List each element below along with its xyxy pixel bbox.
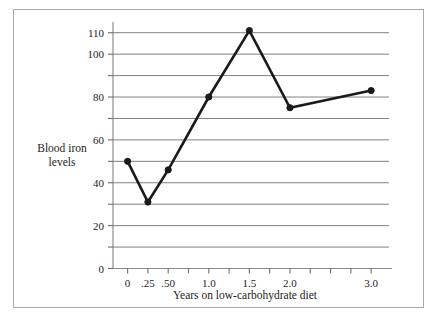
x-axis-tick-label: 1.0	[202, 277, 216, 289]
y-axis-ticks	[108, 33, 113, 269]
y-axis-title-line2: levels	[49, 156, 76, 168]
x-axis-tick-label: .50	[161, 277, 175, 289]
chart-figure: 020406080100110 0.25.501.01.52.03.0 Bloo…	[0, 0, 439, 327]
x-axis-tick-labels: 0.25.501.01.52.03.0	[125, 277, 379, 289]
y-axis-tick-label: 40	[93, 177, 105, 189]
data-point	[125, 158, 131, 164]
y-axis-tick-label: 110	[88, 27, 105, 39]
y-axis-tick-label: 100	[88, 48, 105, 60]
y-axis-title-line1: Blood iron	[37, 142, 87, 154]
x-axis-tick-label: 1.5	[243, 277, 257, 289]
y-axis-tick-label: 0	[99, 263, 105, 275]
y-axis-tick-labels: 020406080100110	[88, 27, 105, 275]
data-point	[368, 87, 374, 93]
x-axis-tick-label: 3.0	[364, 277, 378, 289]
y-axis-tick-label: 80	[93, 91, 105, 103]
data-series-line	[128, 31, 372, 202]
gridlines-group	[113, 33, 389, 269]
y-axis-tick-label: 20	[93, 220, 105, 232]
x-axis-tick-label: 2.0	[283, 277, 297, 289]
data-point	[206, 94, 212, 100]
line-chart: 020406080100110 0.25.501.01.52.03.0 Bloo…	[0, 0, 439, 327]
data-point	[246, 27, 252, 33]
x-axis-tick-label: .25	[141, 277, 155, 289]
data-point	[165, 167, 171, 173]
y-axis-tick-label: 60	[93, 134, 105, 146]
data-point	[145, 199, 151, 205]
data-point	[287, 105, 293, 111]
x-axis-title: Years on low-carbohydrate diet	[173, 289, 318, 302]
x-axis-tick-label: 0	[125, 277, 131, 289]
x-axis-ticks	[128, 269, 372, 274]
